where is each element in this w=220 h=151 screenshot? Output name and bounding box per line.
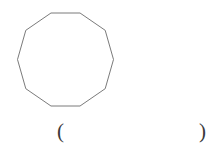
answer-row: ( ): [0, 116, 220, 151]
answer-blank-field[interactable]: [70, 120, 196, 144]
regular-decagon-shape: [18, 13, 114, 106]
polygon-figure-svg: [0, 0, 132, 118]
open-parenthesis: (: [57, 116, 64, 146]
polygon-figure-container: [0, 0, 132, 118]
close-parenthesis: ): [199, 116, 206, 146]
worksheet-page: ( ): [0, 0, 220, 151]
